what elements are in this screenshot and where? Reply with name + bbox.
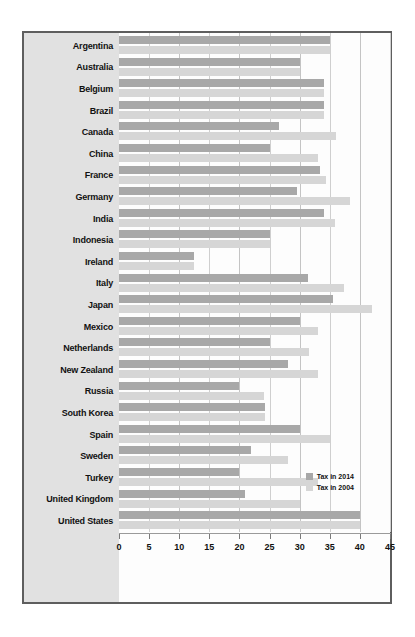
chart-frame: ArgentinaAustraliaBelgiumBrazilCanadaChi… [22, 31, 392, 604]
chart-legend: Tax in 2014Tax in 2004 [306, 471, 354, 493]
gridline-45 [390, 33, 391, 532]
chart-overlay: Tax in 2014Tax in 2004 [24, 33, 390, 602]
legend-swatch-icon [306, 473, 313, 480]
legend-item[interactable]: Tax in 2004 [306, 482, 354, 493]
legend-item[interactable]: Tax in 2014 [306, 471, 354, 482]
chart-plot-wrapper: ArgentinaAustraliaBelgiumBrazilCanadaChi… [24, 33, 390, 602]
legend-swatch-icon [306, 484, 313, 491]
legend-label: Tax in 2014 [317, 471, 354, 482]
x-tick-45 [390, 534, 391, 539]
legend-label: Tax in 2004 [317, 482, 354, 493]
